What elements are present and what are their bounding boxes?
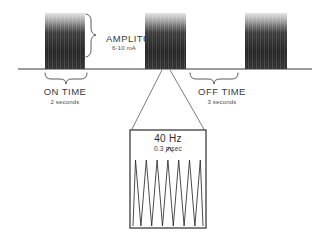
off-time-label: OFF TIME [198, 87, 246, 97]
inset-pulse-width-label: 0.3 msec [154, 146, 182, 153]
funnel-line-left [131, 70, 162, 131]
burst-block-1 [45, 13, 85, 69]
on-time-brace [45, 73, 87, 84]
amplitude-brace [86, 14, 96, 57]
amplitude-value: 6-10 mA [112, 45, 136, 51]
off-time-brace [190, 73, 238, 84]
on-time-label: ON TIME [44, 87, 87, 97]
amplitude-label: AMPLITUDE [106, 34, 164, 44]
burst-block-3 [245, 13, 287, 69]
inset-frequency-label: 40 Hz [154, 134, 182, 144]
on-time-value: 2 seconds [50, 99, 79, 105]
off-time-value: 3 seconds [207, 99, 236, 105]
